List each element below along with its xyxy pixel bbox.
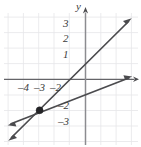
x-tick-label-neg4: –4 <box>18 82 29 93</box>
coordinate-plane-svg <box>0 0 141 147</box>
graph-figure: y 3 2 1 –2 –3 –4 –3 –2 <box>0 0 141 147</box>
y-axis-label: y <box>76 1 81 12</box>
y-tick-label-neg2: –2 <box>58 100 69 111</box>
y-tick-label-2: 2 <box>63 33 69 44</box>
y-tick-label-1: 1 <box>63 49 69 60</box>
y-tick-label-neg3: –3 <box>58 116 69 127</box>
y-tick-label-3: 3 <box>63 18 69 29</box>
x-tick-label-neg2: –2 <box>50 82 61 93</box>
x-tick-label-neg3: –3 <box>34 82 45 93</box>
intersection-point-marker <box>36 107 43 114</box>
